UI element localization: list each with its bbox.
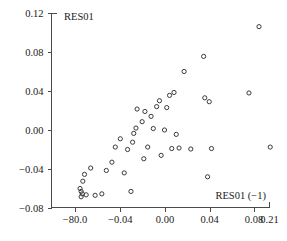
x-axis-tick-label: 0.00 bbox=[156, 214, 174, 225]
x-axis-title: RES01 (−1) bbox=[215, 190, 266, 202]
y-axis-title: RES01 bbox=[64, 11, 94, 22]
x-axis-tick-label: −80.0 bbox=[63, 214, 87, 225]
y-axis-tick-label: 0.12 bbox=[25, 8, 43, 19]
plot-canvas: 0.120.080.040.00−0.04−0.08 −80.0−0.040.0… bbox=[0, 0, 287, 241]
x-axis-tick-label: 0.04 bbox=[200, 214, 219, 225]
scatter-plot-figure: 0.120.080.040.00−0.04−0.08 −80.0−0.040.0… bbox=[0, 0, 287, 241]
y-axis-tick-label: 0.04 bbox=[25, 86, 44, 97]
y-axis-tick-label: −0.04 bbox=[19, 164, 44, 175]
x-axis-tick-label: −0.04 bbox=[108, 214, 133, 225]
y-axis-tick-label: 0.00 bbox=[25, 125, 43, 136]
x-axis-tick-label: 0.21 bbox=[260, 214, 278, 225]
y-axis-tick-label: 0.08 bbox=[25, 47, 43, 58]
y-axis-tick-label: −0.08 bbox=[19, 203, 43, 214]
